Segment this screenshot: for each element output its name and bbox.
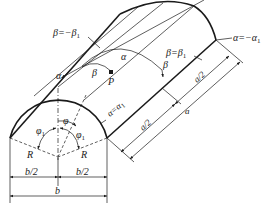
- leader-alpha-neg: [216, 38, 232, 40]
- extension-line-back: [216, 40, 243, 63]
- cylindrical-shell-diagram: β=−β1 α=−α1 β=β1 α α β β P α=α1 φ φ1 φ1 …: [0, 0, 276, 218]
- label-half-length-upper: a/2: [192, 69, 208, 84]
- label-alpha-axis: α: [56, 70, 62, 81]
- extension-line-front: [107, 138, 134, 162]
- label-half-length-lower: a/2: [138, 117, 154, 132]
- label-radius-right: R: [80, 149, 87, 160]
- generator-line: [58, 3, 163, 87]
- label-phi1-left: φ1: [36, 125, 46, 138]
- label-alpha-pos-edge: α=α1: [105, 98, 128, 120]
- label-width: b: [55, 185, 60, 196]
- beta-arc-to-P: [82, 63, 112, 72]
- label-half-width-left: b/2: [25, 166, 38, 177]
- label-alpha-neg-edge: α=−α1: [233, 32, 261, 45]
- point-P-marker: [109, 70, 113, 74]
- label-beta-arc: β: [91, 67, 97, 78]
- label-length: a: [185, 106, 190, 116]
- beta-arrow: [162, 70, 163, 77]
- radius-left-line: [10, 138, 58, 157]
- front-arc: [10, 100, 107, 138]
- label-beta-arc-right: β: [162, 59, 168, 70]
- label-alpha-axis-mid: α: [121, 51, 127, 62]
- label-point-P: P: [107, 76, 114, 87]
- label-half-width-right: b/2: [76, 166, 89, 177]
- label-phi: φ: [63, 115, 69, 126]
- leader-alpha-pos: [100, 120, 106, 124]
- label-beta-neg-edge: β=−β1: [52, 27, 80, 40]
- back-arc: [120, 2, 216, 41]
- label-radius-left: R: [26, 149, 33, 160]
- label-beta-pos-edge: β=β1: [165, 47, 187, 60]
- label-phi1-right: φ1: [76, 129, 86, 142]
